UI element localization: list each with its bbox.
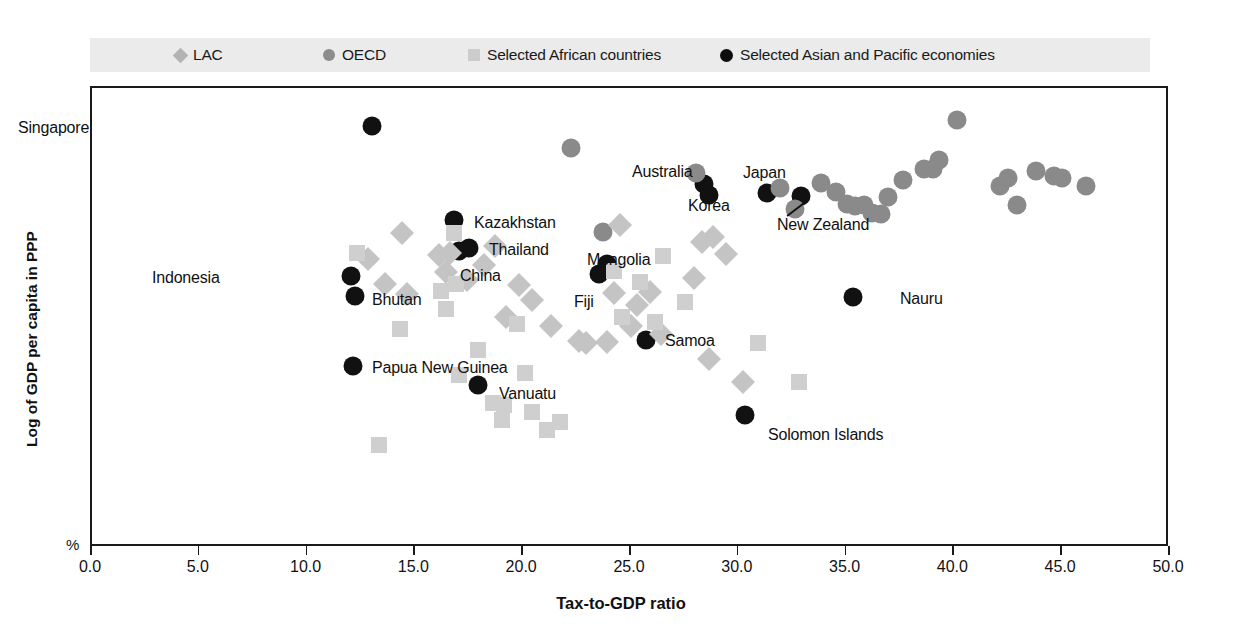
x-tick-mark — [1060, 546, 1062, 555]
x-tick-label: 50.0 — [1152, 558, 1183, 576]
y-axis-unit: % — [66, 536, 79, 553]
legend-item-2[interactable]: Selected African countries — [468, 38, 661, 72]
x-tick-mark — [952, 546, 954, 555]
point-label-china: China — [460, 268, 501, 284]
chart-page: LACOECDSelected African countriesSelecte… — [0, 0, 1242, 638]
data-point — [999, 169, 1018, 188]
legend-item-0[interactable]: LAC — [175, 38, 223, 72]
x-tick-mark — [1168, 546, 1170, 555]
x-tick-mark — [413, 546, 415, 555]
data-point — [878, 187, 897, 206]
data-point — [770, 178, 789, 197]
legend-item-3[interactable]: Selected Asian and Pacific economies — [720, 38, 995, 72]
data-point — [433, 283, 449, 299]
point-label-kazakhstan: Kazakhstan — [474, 215, 556, 231]
data-point — [602, 281, 626, 305]
data-point — [1053, 169, 1072, 188]
point-label-fiji: Fiji — [574, 294, 594, 310]
data-point — [509, 316, 525, 332]
data-point-indonesia — [341, 267, 360, 286]
data-point — [632, 274, 648, 290]
data-point — [655, 248, 671, 264]
data-point — [872, 205, 891, 224]
data-point — [1007, 196, 1026, 215]
data-point — [494, 412, 510, 428]
x-tick-mark — [90, 546, 92, 555]
legend-marker-diamond-icon — [173, 47, 189, 63]
data-point — [561, 138, 580, 157]
legend-label: Selected Asian and Pacific economies — [740, 46, 995, 64]
point-label-singapore: Singapore — [18, 120, 89, 136]
point-label-thailand: Thailand — [489, 242, 549, 258]
legend-label: Selected African countries — [487, 46, 661, 64]
data-point — [517, 365, 533, 381]
data-point — [614, 309, 630, 325]
data-point — [438, 301, 454, 317]
point-label-solomon-islands: Solomon Islands — [768, 427, 883, 443]
x-tick-label: 15.0 — [398, 558, 429, 576]
point-label-indonesia: Indonesia — [152, 270, 220, 286]
point-label-samoa: Samoa — [665, 333, 715, 349]
data-point — [470, 342, 486, 358]
data-point — [677, 294, 693, 310]
x-tick-label: 45.0 — [1045, 558, 1076, 576]
data-point — [647, 314, 663, 330]
data-point — [681, 265, 705, 289]
data-point-vanuatu — [468, 376, 487, 395]
data-point-solomon-islands — [736, 406, 755, 425]
plot-area: SingaporeKazakhstanThailandChinaIndonesi… — [90, 86, 1168, 546]
legend-label: OECD — [342, 46, 386, 64]
x-tick-label: 20.0 — [506, 558, 537, 576]
data-point — [524, 404, 540, 420]
x-tick-label: 5.0 — [187, 558, 209, 576]
x-tick-mark — [521, 546, 523, 555]
data-point — [552, 414, 568, 430]
data-point-singapore — [363, 117, 382, 136]
data-point — [446, 225, 462, 241]
point-label-korea: Korea — [688, 198, 730, 214]
point-label-mongolia: Mongolia — [587, 252, 650, 268]
data-point — [349, 245, 365, 261]
data-point — [750, 335, 766, 351]
x-axis-ticks: 0.05.010.015.020.025.030.035.040.045.050… — [90, 546, 1168, 547]
x-tick-label: 30.0 — [721, 558, 752, 576]
point-label-new-zealand: New Zealand — [777, 217, 869, 233]
data-point — [791, 374, 807, 390]
x-tick-label: 35.0 — [829, 558, 860, 576]
data-points-layer: SingaporeKazakhstanThailandChinaIndonesi… — [92, 88, 1166, 544]
point-label-bhutan: Bhutan — [372, 292, 422, 308]
chart-legend: LACOECDSelected African countriesSelecte… — [90, 38, 1150, 72]
data-point — [893, 171, 912, 190]
legend-marker-circle-icon — [323, 49, 335, 61]
x-tick-label: 0.0 — [79, 558, 101, 576]
legend-marker-circle-icon — [720, 49, 733, 62]
data-point — [697, 347, 721, 371]
x-tick-mark — [306, 546, 308, 555]
legend-label: LAC — [193, 46, 223, 64]
y-axis-title: Log of GDP per capita in PPP — [23, 189, 41, 489]
legend-marker-square-icon — [468, 49, 480, 61]
point-label-vanuatu: Vanuatu — [499, 386, 556, 402]
x-tick-mark — [629, 546, 631, 555]
data-point — [1027, 162, 1046, 181]
data-point — [947, 111, 966, 130]
data-point — [714, 242, 738, 266]
x-tick-label: 40.0 — [937, 558, 968, 576]
data-point — [390, 221, 414, 245]
data-point — [595, 330, 619, 354]
x-tick-mark — [845, 546, 847, 555]
data-point — [731, 370, 755, 394]
x-axis-title: Tax-to-GDP ratio — [0, 594, 1242, 613]
x-tick-label: 10.0 — [290, 558, 321, 576]
legend-item-1[interactable]: OECD — [323, 38, 386, 72]
data-point — [930, 151, 949, 170]
x-tick-mark — [737, 546, 739, 555]
data-point — [371, 437, 387, 453]
point-label-papua-new-guinea: Papua New Guinea — [372, 360, 508, 376]
x-tick-mark — [198, 546, 200, 555]
x-tick-label: 25.0 — [613, 558, 644, 576]
data-point — [392, 321, 408, 337]
data-point — [1076, 177, 1095, 196]
data-point-papua-new-guinea — [343, 356, 362, 375]
data-point — [539, 314, 563, 338]
